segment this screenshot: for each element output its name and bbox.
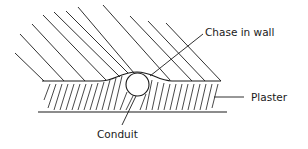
conduit-circle xyxy=(126,73,149,96)
chase-label: Chase in wall xyxy=(205,27,274,38)
chase-leader-line xyxy=(150,34,203,76)
conduit-chase-diagram xyxy=(0,0,308,149)
wall-hatching xyxy=(15,5,221,81)
plaster-label: Plaster xyxy=(251,92,287,103)
conduit-label: Conduit xyxy=(97,129,138,140)
